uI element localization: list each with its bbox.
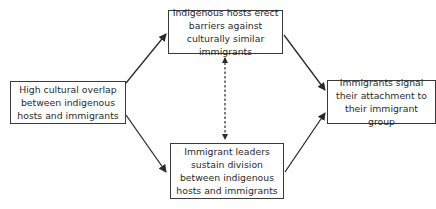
node-leaders: Immigrant leaders sustain division betwe… [170,143,284,199]
node-outcome: Immigrants signal their attachment to th… [327,80,436,124]
node-cause: High cultural overlap between indigenous… [10,81,126,124]
arrow-leaders-to-outcome [285,113,325,172]
arrow-cause-to-leaders [126,115,166,172]
arrow-hosts-to-outcome [284,35,325,90]
node-outcome-text: Immigrants signal their attachment to th… [331,76,432,128]
node-leaders-text: Immigrant leaders sustain division betwe… [174,145,280,197]
node-cause-text: High cultural overlap between indigenous… [14,83,122,122]
node-hosts-text: Indigenous hosts erect barriers against … [172,6,279,58]
arrow-cause-to-hosts [126,34,166,83]
node-hosts: Indigenous hosts erect barriers against … [168,10,283,54]
